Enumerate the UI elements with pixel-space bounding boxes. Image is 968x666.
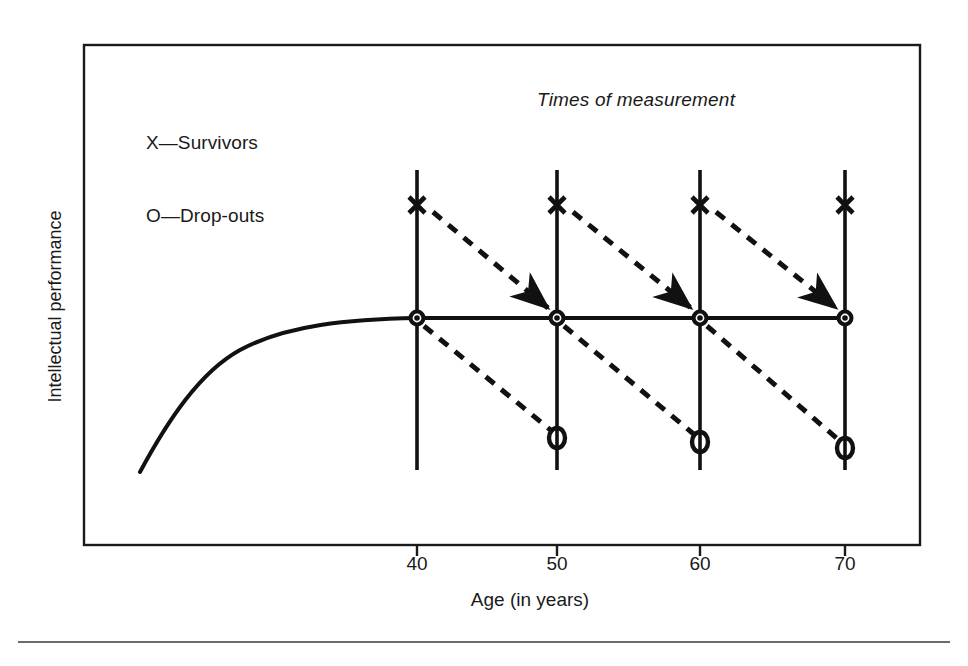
dropout-line-60-70: [707, 326, 841, 442]
x-tick-label-40: 40: [387, 553, 447, 575]
survivor-arrow-60-70: [716, 212, 836, 308]
legend-item-dropouts: O—Drop-outs: [146, 204, 264, 228]
legend-item-survivors: X—Survivors: [146, 131, 264, 155]
survivor-arrow-50-60: [573, 212, 691, 308]
figure-container: X—Survivors O—Drop-outs Times of measure…: [0, 0, 968, 666]
plateau-o-marker-50: [549, 310, 566, 327]
x-tick-label-60: 60: [670, 553, 730, 575]
dropout-line-50-60: [564, 326, 696, 436]
growth-curve: [140, 318, 417, 472]
plateau-o-marker-40: [409, 310, 426, 327]
dropout-line-40-50: [424, 326, 553, 432]
plateau-o-marker-70: [837, 310, 854, 327]
plateau-o-marker-60: [692, 310, 709, 327]
y-axis-title: Intellectual performance: [44, 177, 67, 437]
legend: X—Survivors O—Drop-outs: [146, 82, 264, 277]
survivor-arrow-40-50: [433, 212, 548, 308]
x-axis-title: Age (in years): [420, 588, 640, 612]
x-tick-label-70: 70: [815, 553, 875, 575]
panel-title: Times of measurement: [537, 88, 735, 112]
x-tick-label-50: 50: [527, 553, 587, 575]
